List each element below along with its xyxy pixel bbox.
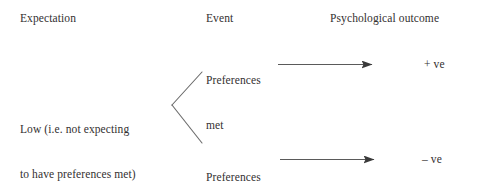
node-event-preferences-not-met: Preferences not met [206,140,261,181]
branch-line-upper [172,72,202,105]
branch-line-lower [172,105,202,143]
node-outcome-negative: – ve [422,152,442,167]
node-event-preferences-met-line1: Preferences [206,73,261,88]
node-expectation-low-line1: Low (i.e. not expecting [20,122,136,137]
node-outcome-positive: + ve [424,57,445,72]
expectation-outcome-diagram: Expectation Event Psychological outcome … [0,0,483,181]
column-header-psychological-outcome: Psychological outcome [330,11,439,26]
node-event-preferences-not-met-line1: Preferences [206,170,261,181]
column-header-event: Event [206,11,233,26]
node-expectation-low: Low (i.e. not expecting to have preferen… [20,92,136,181]
node-expectation-low-line2: to have preferences met) [20,167,136,181]
node-event-preferences-met-line2: met [206,118,261,133]
column-header-expectation: Expectation [20,11,76,26]
